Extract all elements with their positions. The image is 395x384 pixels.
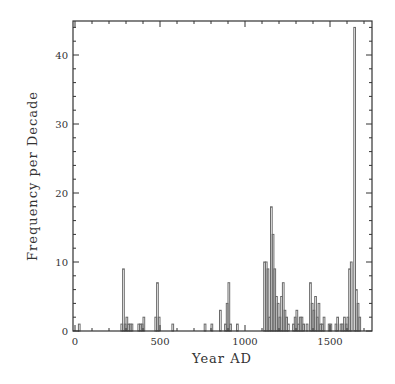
y-tick-label: 20 [55, 188, 68, 199]
x-tick-label: 0 [72, 336, 78, 347]
x-axis-title: Year AD [191, 351, 252, 366]
histogram-bin [220, 310, 222, 331]
histogram-bin [230, 324, 232, 331]
x-tick-label: 1500 [317, 336, 342, 347]
axis-ticks [73, 21, 372, 331]
histogram-bin [359, 317, 361, 331]
histogram-bin [303, 324, 305, 331]
histogram-bin [350, 262, 352, 331]
histogram-bin [123, 269, 125, 331]
y-tick-label: 30 [55, 119, 68, 130]
x-tick-label: 1000 [232, 336, 257, 347]
histogram-bin [306, 324, 308, 331]
histogram-bin [288, 324, 290, 331]
histogram-bin [354, 27, 356, 331]
histogram-bin [323, 317, 325, 331]
histogram-bin [204, 324, 206, 331]
y-tick-labels: 0 10 20 30 40 [55, 50, 68, 337]
y-tick-label: 10 [55, 257, 68, 268]
plot-frame [73, 21, 372, 331]
x-tick-labels: 0 500 1000 1500 [72, 336, 343, 347]
histogram-bars [78, 27, 360, 331]
y-tick-label: 0 [62, 326, 68, 337]
histogram-chart: 0 500 1000 1500 0 10 20 30 40 Year AD Fr… [0, 0, 395, 384]
histogram-bin [78, 324, 80, 331]
y-axis-title: Frequency per Decade [25, 91, 40, 261]
histogram-bin [237, 324, 239, 331]
x-tick-label: 500 [150, 336, 169, 347]
y-tick-label: 40 [55, 50, 68, 61]
histogram-bin [337, 317, 339, 331]
histogram-bin [172, 324, 174, 331]
histogram-bin [131, 324, 133, 331]
